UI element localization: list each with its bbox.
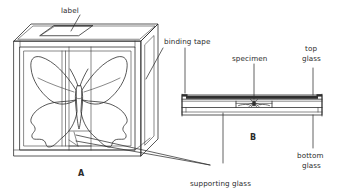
- label-text-binding-tape: binding tape: [164, 37, 211, 46]
- binding-tape-band: [186, 96, 318, 99]
- label-text-label: label: [61, 6, 79, 15]
- case-bottom-ledge: [14, 138, 150, 150]
- diagram-canvas: label binding tape specimen top glass bo…: [0, 0, 337, 193]
- case-right-face: [141, 24, 158, 156]
- butterfly-left-hindwing: [31, 100, 77, 147]
- specimen-case-diagram: label binding tape specimen top glass bo…: [0, 0, 337, 193]
- butterfly-vein-right: [84, 78, 120, 92]
- binding-tape-top-edges: [20, 41, 135, 47]
- butterfly-right-hindwing: [81, 100, 127, 147]
- binding-tape-right-cap: [317, 94, 323, 96]
- leader-label: [71, 15, 80, 31]
- label-text-top-glass-line1: top: [305, 44, 317, 53]
- view-a-case: [14, 24, 158, 156]
- label-text-specimen: specimen: [232, 54, 267, 63]
- case-top-inner-rim: [18, 26, 155, 39]
- butterfly-specimen: [31, 57, 127, 147]
- label-text-bottom-glass-line1: bottom: [297, 151, 324, 160]
- supporting-glass-corner-detail: [69, 132, 78, 146]
- leader-supporting-glass-a1: [76, 141, 210, 165]
- label-text-top-glass-line2: glass: [302, 54, 321, 63]
- label-paper-crease: [42, 26, 92, 35]
- butterfly-vein-left: [38, 78, 74, 92]
- binding-tape-left-cap: [182, 94, 188, 96]
- case-right-face-inner-frame: [145, 36, 154, 146]
- butterfly-thorax-line: [77, 98, 82, 99]
- label-text-bottom-glass-line2: glass: [302, 161, 321, 170]
- view-caption-a: A: [78, 169, 85, 178]
- butterfly-right-forewing: [82, 57, 127, 105]
- view-caption-b: B: [250, 133, 256, 142]
- label-text-supporting-glass: supporting glass: [190, 179, 251, 188]
- leader-binding-tape-a: [146, 48, 163, 79]
- view-b-cross-section: [182, 94, 322, 116]
